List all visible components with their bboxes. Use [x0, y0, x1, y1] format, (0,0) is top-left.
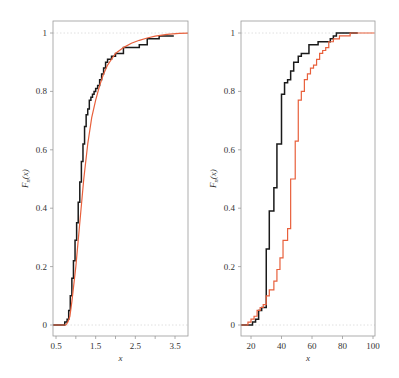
y-tick-label: 0.2 [36, 262, 47, 272]
x-tick-label: 40 [277, 341, 287, 351]
y-tick-label: 0.2 [224, 262, 235, 272]
x-tick-label: 3.5 [169, 341, 181, 351]
y-tick-label: 0.6 [224, 145, 236, 155]
x-tick-label: 1.5 [90, 341, 102, 351]
y-tick-label: 0 [231, 320, 236, 330]
x-axis-label: x [118, 353, 123, 363]
x-tick-label: 60 [308, 341, 318, 351]
series-line-0 [52, 36, 174, 325]
x-tick-label: 80 [338, 341, 348, 351]
y-tick-label: 1 [43, 28, 48, 38]
x-tick-label: 2.5 [130, 341, 142, 351]
y-tick-label: 0.8 [36, 86, 48, 96]
y-tick-label: 0.4 [224, 203, 236, 213]
y-tick-label: 0.4 [36, 203, 48, 213]
series-line-0 [240, 33, 357, 325]
y-tick-label: 0 [43, 320, 48, 330]
plot-frame [241, 21, 375, 336]
figure: 00.20.40.60.810.51.52.53.5xFn(x) 00.20.4… [0, 0, 399, 378]
chart-canvas: 00.20.40.60.810.51.52.53.5xFn(x) 00.20.4… [0, 0, 399, 378]
series-line-1 [240, 33, 374, 325]
x-tick-label: 20 [247, 341, 257, 351]
left-panel-ecdf-vs-fitted: 00.20.40.60.810.51.52.53.5xFn(x) [20, 21, 189, 363]
x-axis-label: x [305, 353, 310, 363]
y-axis-label: Fn(x) [20, 169, 31, 189]
x-tick-label: 100 [366, 341, 380, 351]
y-tick-label: 0.8 [224, 86, 236, 96]
x-tick-label: 0.5 [50, 341, 62, 351]
y-tick-label: 0.6 [36, 145, 48, 155]
y-tick-label: 1 [231, 28, 236, 38]
right-panel-two-ecdfs: 00.20.40.60.8120406080100xFn(x) [208, 21, 380, 363]
y-axis-label: Fn(x) [208, 169, 219, 189]
